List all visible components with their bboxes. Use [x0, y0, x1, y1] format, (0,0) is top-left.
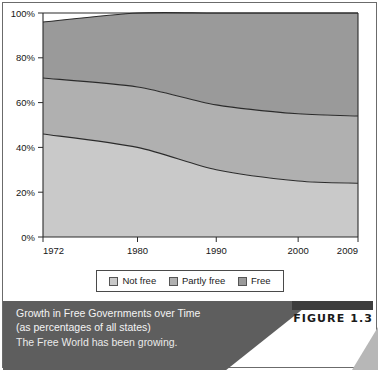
x-tick-label-2009: 2009 [337, 245, 358, 256]
legend-label-free: Free [251, 276, 271, 286]
caption-subtitle: The Free World has been growing. [16, 334, 261, 349]
x-tick-label-1980: 1980 [127, 245, 148, 256]
caption-title-line-1: Growth in Free Governments over Time [16, 307, 261, 321]
legend-swatch-free [238, 277, 247, 286]
legend-label-not-free: Not free [122, 276, 156, 286]
caption-band: Growth in Free Governments over Time (as… [3, 301, 378, 370]
caption-title-line-2: (as percentages of all states) [16, 321, 261, 335]
chart-legend: Not free Partly free Free [96, 270, 284, 292]
figure-tag-label: FIGURE 1.3 [287, 313, 373, 325]
legend-item-free[interactable]: Free [238, 276, 271, 286]
y-tick-label-20: 20% [16, 187, 36, 198]
chart-areas [43, 12, 358, 237]
y-tick-label-60: 60% [16, 97, 36, 108]
figure-container: 0%20%40%60%80%100% 19721980199020002009 … [0, 0, 381, 373]
legend-item-partly-free[interactable]: Partly free [169, 276, 225, 286]
figure-tag-bar [292, 301, 373, 310]
y-tick-label-80: 80% [16, 52, 36, 63]
x-axis-tick-labels: 19721980199020002009 [43, 245, 358, 256]
x-tick-label-1990: 1990 [206, 245, 227, 256]
x-tick-label-1972: 1972 [43, 245, 64, 256]
y-axis-tick-labels: 0%20%40%60%80%100% [11, 8, 36, 243]
legend-swatch-not-free [109, 277, 118, 286]
caption-corner-wedge [352, 327, 378, 370]
legend-swatch-partly-free [169, 277, 178, 286]
caption-text-block: Growth in Free Governments over Time (as… [16, 307, 261, 349]
x-tick-label-2000: 2000 [288, 245, 309, 256]
legend-label-partly-free: Partly free [182, 276, 225, 286]
chart-area: 0%20%40%60%80%100% 19721980199020002009 [3, 3, 376, 300]
y-tick-label-0: 0% [21, 232, 35, 243]
y-tick-label-40: 40% [16, 142, 36, 153]
y-tick-label-100: 100% [11, 8, 36, 19]
legend-item-not-free[interactable]: Not free [109, 276, 156, 286]
figure-tag: FIGURE 1.3 [287, 301, 373, 325]
stacked-area-chart: 0%20%40%60%80%100% 19721980199020002009 [3, 3, 376, 300]
